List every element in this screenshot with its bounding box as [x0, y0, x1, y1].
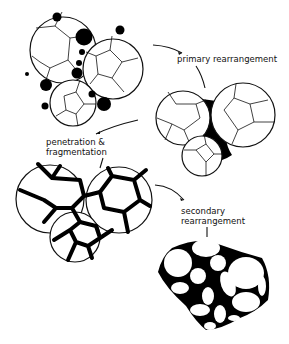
label-primary-rearrangement: primary rearrangement [177, 54, 278, 64]
stage-4-cluster [158, 239, 269, 330]
label-penetration-line2: fragmentation [46, 147, 107, 157]
label-secondary-line2: rearrangement [181, 216, 246, 226]
pointer-penetration [100, 158, 103, 168]
pointer-primary [196, 66, 205, 88]
label-secondary-line1: secondary [181, 206, 225, 216]
stage-2-particles [156, 83, 275, 176]
sintering-diagram: primary rearrangement penetration & frag… [0, 0, 289, 344]
stage-3-particles [16, 164, 152, 262]
stage-1-particles [25, 12, 143, 126]
arrow-head-icon [96, 131, 100, 134]
label-penetration-line1: penetration & [46, 137, 105, 147]
arrow-stage1-to-2 [153, 45, 182, 53]
arrow-stage3-to-4 [155, 185, 184, 200]
arrow-stage2-to-3 [96, 120, 138, 134]
